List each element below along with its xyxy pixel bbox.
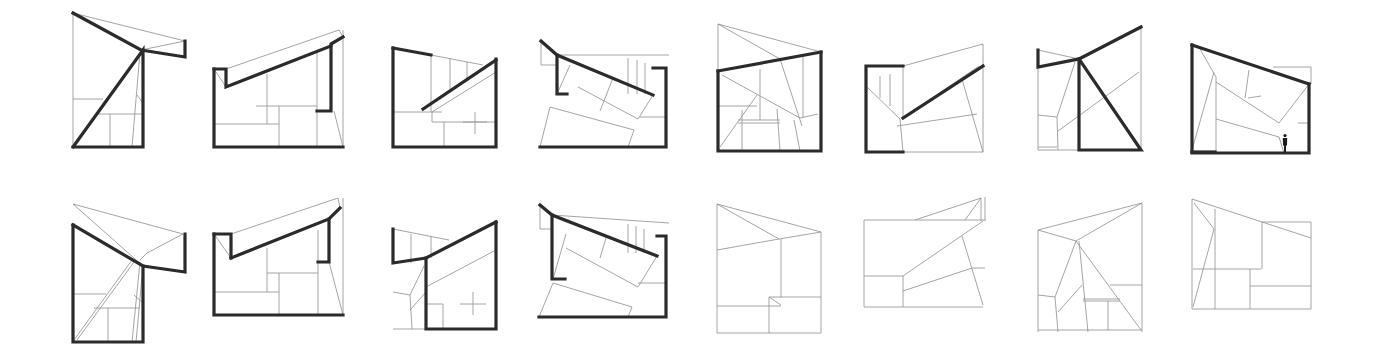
section-cut-line	[214, 37, 343, 87]
construction-line	[432, 72, 496, 112]
construction-line	[965, 198, 981, 220]
section-drawing-r1c7	[1038, 27, 1141, 150]
construction-line	[432, 112, 496, 122]
construction-line	[334, 111, 343, 147]
construction-line	[1076, 203, 1142, 241]
section-drawing-r2c1	[73, 204, 185, 342]
section-cut-line	[393, 222, 496, 263]
section-cut-line	[540, 205, 657, 256]
section-cut-line	[552, 215, 565, 279]
section-drawing-r1c1	[73, 13, 185, 147]
section-drawing-r1c4	[540, 41, 669, 147]
construction-line	[1194, 203, 1214, 229]
construction-line	[1038, 50, 1079, 59]
construction-line	[1192, 199, 1262, 222]
construction-line	[1216, 82, 1279, 123]
construction-line	[1192, 72, 1214, 150]
construction-line	[600, 78, 613, 111]
construction-line	[77, 262, 134, 340]
construction-line	[628, 130, 634, 147]
construction-line	[1057, 117, 1058, 150]
section-cut-line	[214, 69, 343, 147]
section-cut-line	[718, 52, 821, 71]
construction-line	[779, 232, 821, 239]
construction-line	[903, 268, 972, 291]
section-drawing-r1c5	[718, 24, 821, 151]
construction-line	[410, 266, 424, 295]
section-cut-line	[73, 225, 185, 272]
construction-line	[553, 283, 632, 307]
section-drawing-r1c2	[214, 30, 343, 147]
construction-line	[600, 238, 606, 258]
construction-line	[1245, 70, 1249, 98]
section-drawing-r2c3	[393, 222, 496, 329]
construction-line	[722, 75, 800, 118]
construction-line	[431, 55, 483, 65]
section-drawing-r2c2	[214, 198, 343, 315]
construction-line	[718, 24, 780, 59]
construction-line	[214, 234, 231, 258]
architectural-sections-svg	[0, 0, 1379, 362]
construction-line	[132, 262, 140, 342]
construction-line	[410, 295, 412, 329]
construction-line	[231, 198, 338, 234]
construction-line	[1038, 295, 1055, 297]
section-drawing-r2c4	[539, 205, 669, 317]
section-diagram-grid	[0, 0, 1379, 362]
construction-line	[1038, 203, 1142, 230]
section-cut-line	[1038, 50, 1079, 67]
section-drawing-r2c5	[717, 204, 821, 333]
section-cut-line	[318, 219, 329, 262]
section-cut-line	[393, 48, 431, 55]
construction-line	[1038, 230, 1076, 241]
section-drawing-r2c7	[1038, 203, 1142, 332]
construction-line	[718, 24, 821, 52]
construction-line	[147, 234, 183, 253]
construction-line	[141, 41, 185, 50]
section-cut-line	[426, 222, 496, 329]
construction-line	[539, 283, 553, 317]
construction-line	[915, 198, 981, 220]
construction-line	[393, 229, 449, 240]
construction-line	[903, 44, 983, 66]
section-cut-line	[317, 46, 331, 111]
construction-line	[426, 250, 496, 287]
construction-line	[900, 119, 903, 152]
construction-line	[566, 248, 638, 287]
construction-line	[769, 297, 781, 305]
section-drawing-r1c8	[1192, 45, 1311, 153]
construction-line	[1216, 119, 1279, 137]
construction-line	[557, 65, 570, 94]
construction-line	[794, 120, 800, 151]
construction-line	[329, 262, 343, 315]
construction-line	[1058, 285, 1082, 312]
section-cut-line	[866, 66, 903, 152]
construction-line	[540, 107, 550, 147]
construction-line	[1055, 241, 1076, 297]
construction-line	[717, 239, 779, 250]
construction-line	[638, 256, 657, 287]
section-cut-line	[393, 48, 496, 147]
section-drawing-r2c8	[1192, 199, 1311, 309]
section-drawing-r2c6	[864, 197, 985, 307]
construction-line	[720, 95, 757, 147]
section-cut-line	[1079, 59, 1141, 150]
construction-line	[214, 69, 226, 87]
construction-line	[638, 95, 653, 119]
construction-line	[777, 109, 780, 151]
section-cut-line	[1192, 45, 1309, 153]
section-cut-line	[423, 60, 496, 109]
section-drawing-r1c3	[393, 48, 496, 147]
construction-line	[1076, 241, 1141, 330]
construction-line	[780, 59, 802, 126]
section-drawing-r1c6	[866, 44, 983, 152]
construction-line	[717, 204, 779, 239]
construction-line	[1279, 84, 1309, 123]
section-cut-line	[1079, 27, 1141, 59]
construction-line	[74, 260, 132, 340]
construction-line	[903, 221, 983, 276]
construction-line	[393, 292, 410, 295]
construction-line	[1038, 115, 1057, 117]
section-cut-line	[73, 50, 143, 147]
construction-line	[1262, 222, 1311, 238]
